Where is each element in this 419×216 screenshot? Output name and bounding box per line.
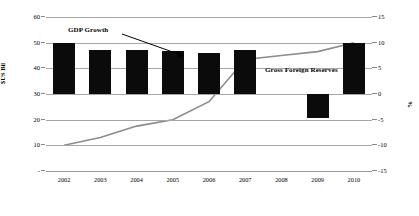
gridline (46, 17, 372, 18)
y-axis-tick-right: 15 (378, 14, 408, 21)
tick-mark (41, 93, 45, 94)
x-axis-tick: 2006 (189, 176, 229, 183)
y-axis-title-left: $US Bil (0, 63, 6, 84)
y-axis-title-right: % (406, 101, 414, 108)
y-axis-tick-left: 10 (14, 142, 40, 149)
x-axis-tick: 2007 (225, 176, 265, 183)
y-axis-tick-right: -10 (378, 142, 408, 149)
y-axis-tick-left: 60 (14, 14, 40, 21)
gridline (46, 43, 372, 44)
y-axis-tick-left: 20 (14, 117, 40, 124)
gridline (46, 120, 372, 121)
x-axis-tick: 2003 (80, 176, 120, 183)
x-axis-tick: 2009 (298, 176, 338, 183)
y-axis-tick-right: 0 (378, 91, 408, 98)
tick-mark (41, 119, 45, 120)
bar-2010 (343, 43, 365, 94)
tick-mark (41, 67, 45, 68)
y-axis-tick-left: 40 (14, 65, 40, 72)
tick-mark (372, 93, 377, 94)
tick-mark (41, 42, 45, 43)
tick-mark (372, 144, 377, 145)
annotation-gdp-growth: GDP Growth (68, 26, 108, 34)
x-axis-tick: 2002 (44, 176, 84, 183)
bar-2002 (53, 43, 75, 94)
y-axis-tick-left: - (14, 168, 40, 175)
annotation-gdp-growth-arrow (120, 32, 200, 62)
annotation-gross-foreign-reserves: Gross Foreign Reserves (265, 66, 338, 74)
x-axis-tick: 2004 (117, 176, 157, 183)
tick-mark (372, 170, 377, 171)
x-axis-tick: 2010 (334, 176, 374, 183)
y-axis-tick-right: 5 (378, 65, 408, 72)
y-axis-tick-right: -15 (378, 168, 408, 175)
x-axis-line (46, 171, 372, 172)
tick-mark (372, 42, 377, 43)
y-axis-tick-left: 30 (14, 91, 40, 98)
bar-2003 (89, 50, 111, 94)
chart-container: $US Bil % GDP Growth Gross Foreign Reser… (0, 0, 419, 216)
tick-mark (41, 170, 45, 171)
tick-mark (41, 16, 45, 17)
plot-area (46, 17, 372, 171)
x-axis-tick: 2005 (153, 176, 193, 183)
bar-2006 (198, 53, 220, 94)
y-axis-tick-right: -5 (378, 117, 408, 124)
bar-2007 (234, 50, 256, 94)
x-axis-tick: 2008 (261, 176, 301, 183)
y-axis-tick-left: 50 (14, 40, 40, 47)
tick-mark (41, 144, 45, 145)
tick-mark (372, 16, 377, 17)
tick-mark (372, 67, 377, 68)
gridline (46, 145, 372, 146)
bar-2009 (307, 94, 329, 118)
y-axis-tick-right: 10 (378, 40, 408, 47)
tick-mark (372, 119, 377, 120)
